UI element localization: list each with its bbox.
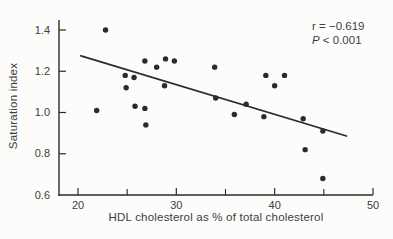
y-tick-label: 1.0 bbox=[35, 106, 50, 118]
data-point bbox=[131, 75, 136, 80]
data-point bbox=[302, 147, 307, 152]
p-value-rest: < 0.001 bbox=[320, 34, 362, 46]
data-point bbox=[163, 56, 168, 61]
x-tick-label: 30 bbox=[170, 199, 182, 211]
data-point bbox=[154, 64, 159, 69]
data-point bbox=[261, 114, 266, 119]
y-tick-label: 1.4 bbox=[35, 24, 50, 36]
data-point bbox=[103, 27, 108, 32]
data-point bbox=[212, 64, 217, 69]
data-point bbox=[142, 58, 147, 63]
data-point bbox=[123, 85, 128, 90]
p-symbol: P bbox=[312, 34, 320, 46]
x-tick-label: 20 bbox=[72, 199, 84, 211]
y-axis-title: Saturation index bbox=[7, 63, 19, 149]
data-point bbox=[272, 83, 277, 88]
data-point bbox=[142, 106, 147, 111]
data-point bbox=[263, 73, 268, 78]
y-tick-label: 1.2 bbox=[35, 65, 50, 77]
data-point bbox=[300, 116, 305, 121]
data-point bbox=[132, 104, 137, 109]
data-point bbox=[172, 58, 177, 63]
x-axis-title: HDL cholesterol as % of total cholestero… bbox=[59, 211, 373, 223]
x-tick-label: 40 bbox=[269, 199, 281, 211]
data-point bbox=[143, 122, 148, 127]
data-point bbox=[213, 95, 218, 100]
data-point bbox=[123, 73, 128, 78]
data-point bbox=[243, 102, 248, 107]
r-value-text: r = −0.619 bbox=[312, 19, 364, 33]
scatter-plot-figure: 0.60.81.01.21.420304050 Saturation index… bbox=[0, 0, 393, 239]
data-point bbox=[320, 128, 325, 133]
y-tick-label: 0.8 bbox=[35, 147, 50, 159]
data-point bbox=[232, 112, 237, 117]
data-point bbox=[162, 83, 167, 88]
y-tick-label: 0.6 bbox=[35, 189, 50, 201]
x-tick-label: 50 bbox=[367, 199, 379, 211]
data-point bbox=[282, 73, 287, 78]
data-point bbox=[320, 176, 325, 181]
stats-annotation: r = −0.619 P < 0.001 bbox=[312, 19, 364, 47]
p-value-text: P < 0.001 bbox=[312, 33, 364, 47]
data-point bbox=[94, 108, 99, 113]
